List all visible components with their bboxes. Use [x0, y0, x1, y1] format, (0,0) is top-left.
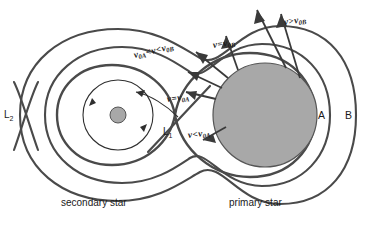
l1-sub: 1: [169, 132, 173, 139]
l1-letter: L: [163, 126, 169, 137]
vel-sub: 0A: [202, 131, 210, 139]
vel-sub: 0B: [227, 41, 236, 49]
l2-sub: 2: [10, 115, 14, 122]
l2-letter: L: [4, 109, 10, 120]
roche-lobe-diagram: v0A<v<v0B v=v0B v>v0B v=v0A v<v0A L1 L2 …: [0, 0, 366, 232]
vel-sub: 0B: [298, 18, 307, 26]
secondary-star-body: [110, 107, 126, 123]
region-label-b: B: [345, 110, 352, 121]
orbit-arrowhead-bottom: [140, 124, 147, 132]
mass-transfer-stream-arrowhead: [136, 90, 145, 97]
caption-primary-star: primary star: [229, 198, 282, 208]
vel-sub: 0A: [181, 95, 189, 103]
primary-star-body: [213, 63, 317, 167]
region-label-a: A: [318, 110, 325, 121]
orbit-arrowhead-top: [89, 98, 96, 106]
velocity-label-equal-a: v=v0A: [166, 92, 189, 104]
velocity-label-less-a: v<v0A: [187, 128, 210, 140]
lagrange-point-l1-label: L1: [163, 127, 172, 137]
caption-secondary-star: secondary star: [61, 198, 127, 208]
diagram-canvas: [0, 0, 366, 232]
lagrange-point-l2-label: L2: [4, 110, 13, 120]
